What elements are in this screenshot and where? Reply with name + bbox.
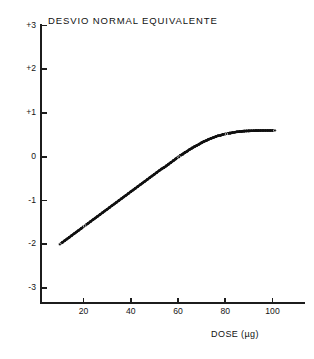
y-tick-label: -3: [14, 282, 36, 292]
plot-area: +3+2+10-1-2-3 20406080100: [0, 0, 314, 359]
data-point-segment: [159, 169, 161, 171]
data-point: [229, 132, 232, 135]
data-point-segment: [79, 229, 81, 231]
data-point: [271, 129, 274, 132]
data-point: [148, 176, 151, 179]
data-point: [252, 129, 255, 132]
highlight-data-point: [274, 129, 276, 131]
x-axis-label: DOSE (µg): [180, 329, 290, 339]
x-tick-mark: [272, 298, 274, 303]
data-point-gap: [273, 129, 276, 132]
data-point-segment: [60, 243, 62, 245]
y-tick-label-wrap: +2: [12, 63, 36, 74]
data-point-segment: [145, 180, 147, 182]
data-point: [125, 194, 128, 197]
data-point-segment: [206, 139, 208, 140]
data-point: [172, 159, 175, 162]
x-tick-label-wrap: 20: [67, 306, 101, 318]
data-point: [233, 131, 236, 134]
data-point-segment: [107, 208, 109, 210]
data-point: [70, 234, 73, 237]
x-tick-label: 80: [208, 306, 242, 316]
data-point: [141, 182, 144, 185]
data-point-segment: [209, 138, 211, 139]
x-tick-mark: [177, 298, 179, 303]
data-point: [108, 206, 111, 209]
data-point: [155, 171, 158, 174]
y-tick-mark: [42, 287, 47, 289]
y-tick-mark: [42, 200, 47, 202]
data-point-segment: [86, 223, 88, 225]
data-point: [77, 229, 80, 232]
data-point: [127, 192, 130, 195]
data-point-segment: [117, 201, 119, 203]
data-point: [205, 139, 208, 142]
y-tick-label-wrap: -1: [12, 195, 36, 206]
y-tick-mark: [42, 25, 47, 27]
highlight-data-point: [84, 225, 86, 227]
data-point: [193, 145, 196, 148]
data-point: [207, 138, 210, 141]
data-point: [158, 169, 161, 172]
y-tick-label: -2: [14, 238, 36, 248]
data-point-segment: [121, 197, 123, 199]
data-point-segment: [124, 195, 126, 197]
data-point: [226, 132, 229, 135]
data-point: [255, 129, 258, 132]
data-point: [165, 165, 168, 168]
data-point-segment: [213, 137, 215, 138]
data-point-segment: [185, 151, 187, 152]
x-tick-label-wrap: 100: [256, 306, 290, 318]
highlight-data-point: [178, 156, 180, 158]
data-point: [170, 161, 173, 164]
data-point: [122, 196, 125, 199]
data-point: [231, 131, 234, 134]
data-point: [134, 187, 137, 190]
data-point-segment: [131, 190, 133, 192]
data-point: [75, 231, 78, 234]
data-point-segment: [74, 232, 76, 234]
data-point-segment: [192, 147, 194, 148]
data-point-segment: [204, 141, 206, 142]
data-point-segment: [180, 154, 182, 155]
data-point-segment: [126, 194, 128, 196]
y-tick-mark: [42, 112, 47, 114]
data-point-segment: [109, 206, 111, 208]
data-point: [66, 238, 69, 241]
y-tick-mark: [42, 156, 47, 158]
data-point-segment: [112, 204, 114, 206]
data-point: [85, 224, 88, 227]
data-point-segment: [65, 239, 67, 241]
data-point: [266, 129, 269, 132]
data-point: [191, 147, 194, 150]
data-point: [136, 185, 139, 188]
data-point: [214, 135, 217, 138]
data-point: [160, 168, 163, 171]
x-tick-mark: [224, 298, 226, 303]
data-point: [174, 158, 177, 161]
y-tick-label: +2: [14, 63, 36, 73]
data-point-segment: [114, 202, 116, 204]
data-point-segment: [216, 136, 218, 137]
data-point: [63, 239, 66, 242]
data-point: [153, 173, 156, 176]
data-point: [179, 154, 182, 157]
data-point: [259, 129, 262, 132]
data-point-segment: [176, 157, 178, 159]
y-axis-line: [40, 24, 42, 304]
data-point-segment: [69, 236, 71, 238]
data-point-segment: [161, 168, 163, 169]
data-point-segment: [178, 155, 180, 157]
data-point-segment: [164, 166, 166, 168]
data-point: [167, 163, 170, 166]
data-point: [68, 236, 71, 239]
data-point-segment: [140, 183, 142, 185]
data-point: [99, 213, 102, 216]
data-point: [132, 189, 135, 192]
data-point-segment: [169, 162, 171, 164]
data-point: [82, 225, 85, 228]
data-point: [222, 133, 225, 136]
y-tick-label: -1: [14, 195, 36, 205]
data-point: [115, 201, 118, 204]
data-point: [240, 130, 243, 133]
